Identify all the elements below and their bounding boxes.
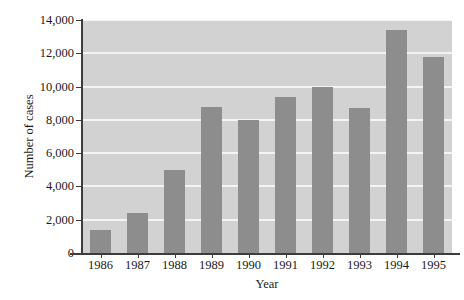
y-axis-tick-mark: [76, 120, 82, 121]
x-axis-tick-label: 1991: [273, 258, 298, 273]
y-axis-tick-mark: [76, 186, 82, 187]
bar: [349, 108, 370, 253]
y-axis-tick-label: 8,000: [18, 114, 74, 127]
plot-area: [82, 20, 452, 253]
bar: [423, 57, 444, 253]
x-axis-tick-mark: [323, 253, 325, 258]
y-axis-tick-label: 4,000: [18, 180, 74, 193]
x-axis-tick-label: 1994: [384, 258, 409, 273]
x-axis-tick-mark: [286, 253, 288, 258]
bar: [238, 120, 259, 253]
bar: [127, 213, 148, 253]
x-axis-tick-mark: [360, 253, 362, 258]
y-axis-tick-mark: [76, 20, 82, 21]
x-axis-tick-labels: 1986198719881989199019911992199319941995: [82, 258, 452, 278]
x-axis-tick-label: 1987: [125, 258, 150, 273]
y-axis-tick-label: 14,000: [18, 14, 74, 27]
x-axis-tick-label: 1990: [236, 258, 261, 273]
x-axis-tick-mark: [434, 253, 436, 258]
x-axis-tick-label: 1993: [347, 258, 372, 273]
x-axis-tick-mark: [249, 253, 251, 258]
bar: [90, 230, 111, 253]
x-axis-tick-label: 1986: [88, 258, 113, 273]
x-axis-tick-mark: [101, 253, 103, 258]
x-axis-tick-mark: [138, 253, 140, 258]
y-axis-tick-label: 0: [18, 247, 74, 260]
gridline: [82, 20, 452, 21]
y-axis-tick-mark: [76, 87, 82, 88]
x-axis-title: Year: [82, 277, 452, 292]
y-axis-tick-mark: [76, 220, 82, 221]
x-axis-tick-mark: [397, 253, 399, 258]
y-axis-tick-label: 12,000: [18, 47, 74, 60]
x-axis-tick-mark: [175, 253, 177, 258]
x-axis-tick-label: 1989: [199, 258, 224, 273]
y-axis-tick-mark: [76, 253, 82, 254]
x-axis-tick-label: 1995: [421, 258, 446, 273]
bar: [164, 170, 185, 253]
bar: [201, 107, 222, 253]
bar-chart-figure: Number of cases 02,0004,0006,0008,00010,…: [0, 0, 464, 300]
x-axis-tick-label: 1988: [162, 258, 187, 273]
y-axis-tick-mark: [76, 153, 82, 154]
x-axis-line: [70, 253, 460, 255]
y-axis-tick-label: 6,000: [18, 147, 74, 160]
bar: [312, 87, 333, 253]
y-axis-tick-label: 10,000: [18, 80, 74, 93]
x-axis-tick-mark: [212, 253, 214, 258]
y-axis-tick-labels: 02,0004,0006,0008,00010,00012,00014,000: [18, 0, 74, 300]
x-axis-tick-label: 1992: [310, 258, 335, 273]
bar: [386, 30, 407, 253]
y-axis-tick-label: 2,000: [18, 213, 74, 226]
y-axis-tick-mark: [76, 53, 82, 54]
bar: [275, 97, 296, 253]
